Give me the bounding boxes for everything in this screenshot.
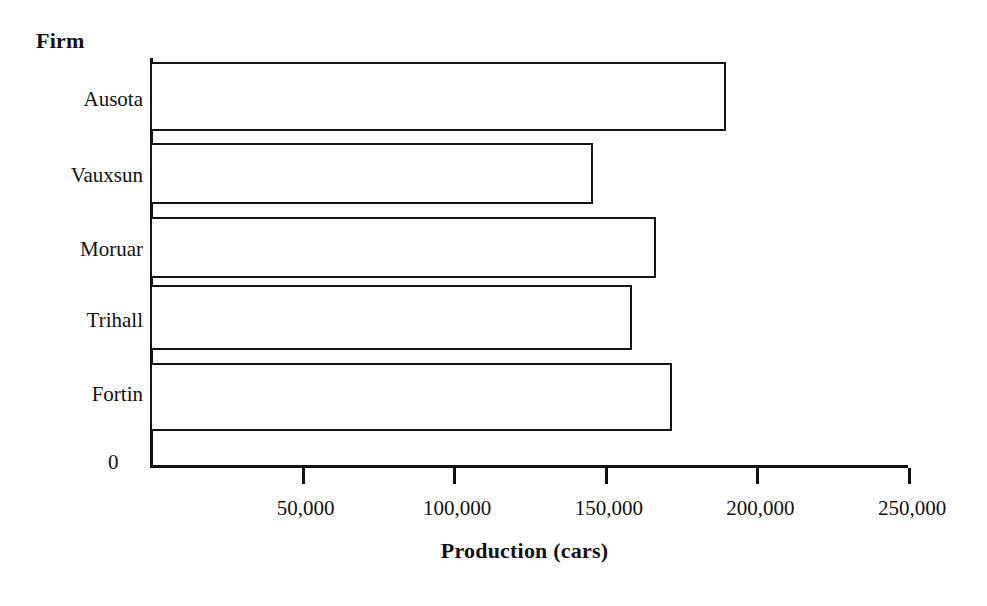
tick-label-150000: 150,000: [575, 496, 643, 521]
category-label-moruar: Moruar: [3, 237, 143, 262]
category-label-trihall: Trihall: [3, 308, 143, 333]
tick-mark-100000: [453, 468, 456, 484]
chart-page: Firm Ausota Vauxsun Moruar Trihall Forti…: [0, 0, 987, 606]
bar-ausota: [150, 62, 726, 131]
tick-label-200000: 200,000: [726, 496, 794, 521]
bar-vauxsun: [150, 143, 593, 204]
zero-tick-label: 0: [108, 450, 119, 475]
value-axis-line: [150, 465, 908, 468]
tick-label-50000: 50,000: [277, 496, 335, 521]
tick-mark-200000: [756, 468, 759, 484]
bar-moruar: [150, 217, 656, 278]
x-axis-title-text: Production (cars): [441, 538, 608, 563]
tick-label-250000: 250,000: [878, 496, 946, 521]
category-label-fortin: Fortin: [3, 382, 143, 407]
category-label-vauxsun: Vauxsun: [3, 163, 143, 188]
tick-mark-250000: [908, 468, 911, 484]
tick-mark-50000: [302, 468, 305, 484]
x-axis-title: Production (cars): [0, 538, 987, 564]
bar-fortin: [150, 363, 672, 431]
tick-mark-150000: [605, 468, 608, 484]
category-label-ausota: Ausota: [3, 87, 143, 112]
plot-area: Ausota Vauxsun Moruar Trihall Fortin 0 5…: [0, 0, 987, 606]
tick-label-100000: 100,000: [423, 496, 491, 521]
bar-trihall: [150, 285, 632, 350]
